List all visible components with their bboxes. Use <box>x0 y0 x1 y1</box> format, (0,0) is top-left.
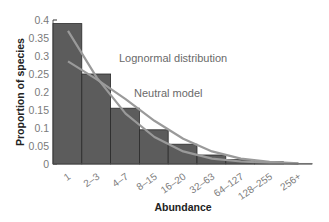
bar <box>139 130 168 164</box>
bar <box>82 74 111 164</box>
species-abundance-chart: 00.050.10.150.20.250.30.350.4 12–34–78–1… <box>0 0 329 222</box>
y-tick-label: 0 <box>43 158 49 170</box>
y-tick-label: 0.35 <box>29 32 50 44</box>
y-tick-label: 0.2 <box>34 86 49 98</box>
x-tick-label: 4–7 <box>110 170 130 189</box>
x-tick-label: 2–3 <box>81 170 101 189</box>
y-tick-label: 0.15 <box>29 104 50 116</box>
x-axis-title: Abundance <box>154 201 211 213</box>
x-axis: 12–34–78–1516–2032–6364–127128–255256+ <box>53 164 312 202</box>
lognormal-label: Lognormal distribution <box>119 52 227 64</box>
y-tick-label: 0.4 <box>34 14 49 26</box>
y-tick-label: 0.3 <box>34 50 49 62</box>
bar <box>111 108 140 164</box>
x-tick-label: 256+ <box>278 171 303 193</box>
x-tick-label: 8–15 <box>134 170 159 192</box>
y-tick-label: 0.25 <box>29 68 50 80</box>
y-tick-label: 0.05 <box>29 140 50 152</box>
x-tick-label: 1 <box>62 170 73 182</box>
y-tick-label: 0.1 <box>34 122 49 134</box>
neutral-label: Neutral model <box>134 87 202 99</box>
x-tick-label: 16–20 <box>159 170 188 195</box>
y-axis-title: Proportion of species <box>14 38 26 146</box>
